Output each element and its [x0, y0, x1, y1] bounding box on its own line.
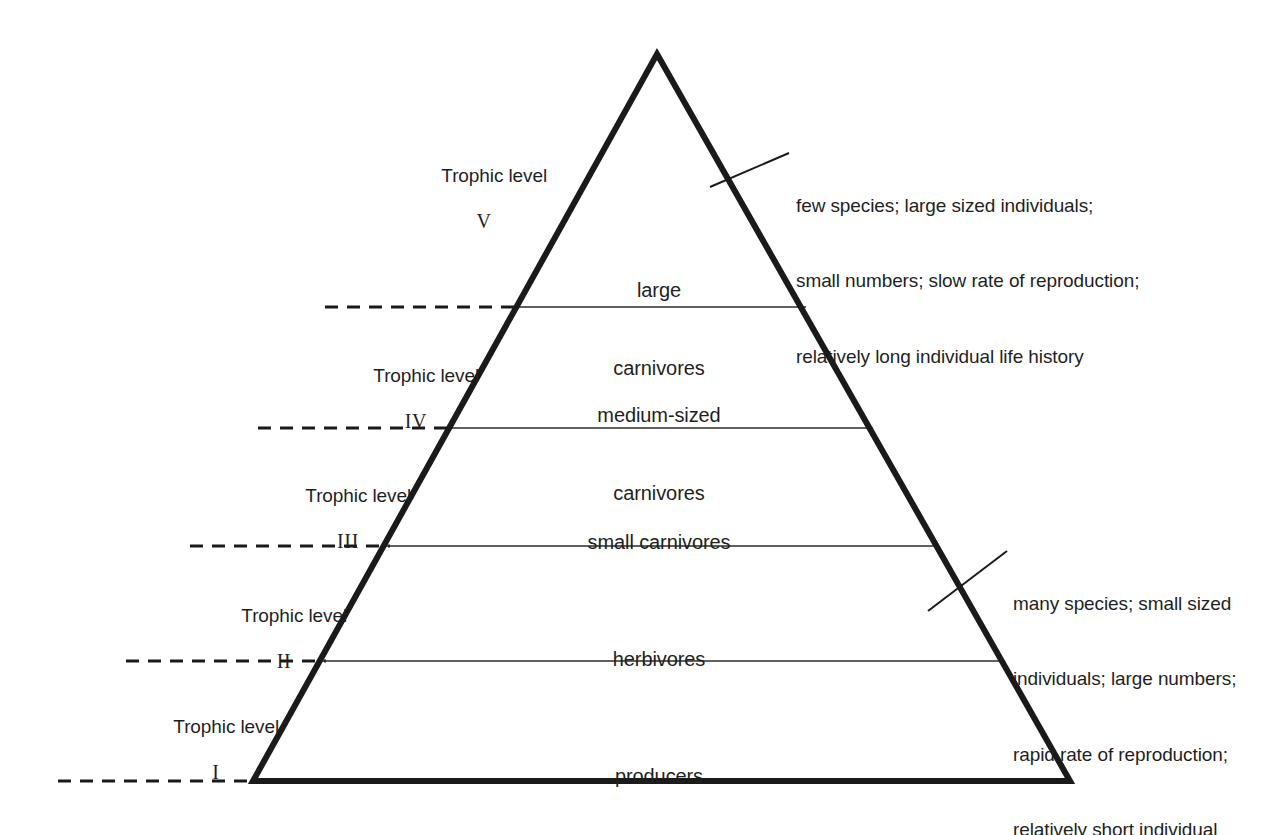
trophic-level-label-v: Trophic level V — [404, 143, 564, 279]
trophic-level-roman-iv: IV — [336, 410, 496, 434]
diagram-canvas: Trophic level V Trophic level IV Trophic… — [0, 0, 1283, 835]
band-label-producers: producers — [615, 711, 703, 835]
annotation-top-line1: few species; large sized individuals; — [796, 193, 1156, 218]
band-label-herbivores-line1: herbivores — [613, 646, 705, 672]
annotation-top-trophic-traits: few species; large sized individuals; sm… — [796, 143, 1156, 419]
trophic-level-label-iii: Trophic level III — [268, 463, 428, 599]
band-label-herbivores: herbivores — [613, 594, 705, 724]
annotation-bottom-line1: many species; small sized — [1013, 591, 1283, 616]
trophic-level-title-iv: Trophic level — [373, 365, 479, 386]
trophic-level-title-i: Trophic level — [173, 716, 279, 737]
band-label-large-carnivores-line1: large — [613, 277, 704, 303]
trophic-level-roman-ii: II — [204, 650, 364, 674]
band-label-small-carnivores-line1: small carnivores — [588, 529, 731, 555]
trophic-level-label-iv: Trophic level IV — [336, 343, 496, 479]
band-label-small-carnivores: small carnivores — [588, 477, 731, 607]
annotation-top-line3: relatively long individual life history — [796, 344, 1156, 369]
annotation-bottom-line3: rapid rate of reproduction; — [1013, 742, 1283, 767]
annotation-bottom-line4: relatively short individual — [1013, 817, 1283, 835]
band-label-producers-line1: producers — [615, 763, 703, 789]
trophic-level-title-iii: Trophic level — [305, 485, 411, 506]
annotation-bottom-trophic-traits: many species; small sized individuals; l… — [1013, 541, 1283, 835]
band-label-medium-carnivores-line1: medium-sized — [597, 402, 720, 428]
trophic-level-roman-iii: III — [268, 530, 428, 554]
annotation-bottom-line2: individuals; large numbers; — [1013, 666, 1283, 691]
trophic-level-label-i: Trophic level I — [136, 694, 296, 830]
trophic-level-title-v: Trophic level — [441, 165, 547, 186]
trophic-level-roman-v: V — [404, 210, 564, 234]
annotation-top-line2: small numbers; slow rate of reproduction… — [796, 268, 1156, 293]
trophic-level-roman-i: I — [136, 761, 296, 785]
trophic-level-title-ii: Trophic level — [241, 605, 347, 626]
